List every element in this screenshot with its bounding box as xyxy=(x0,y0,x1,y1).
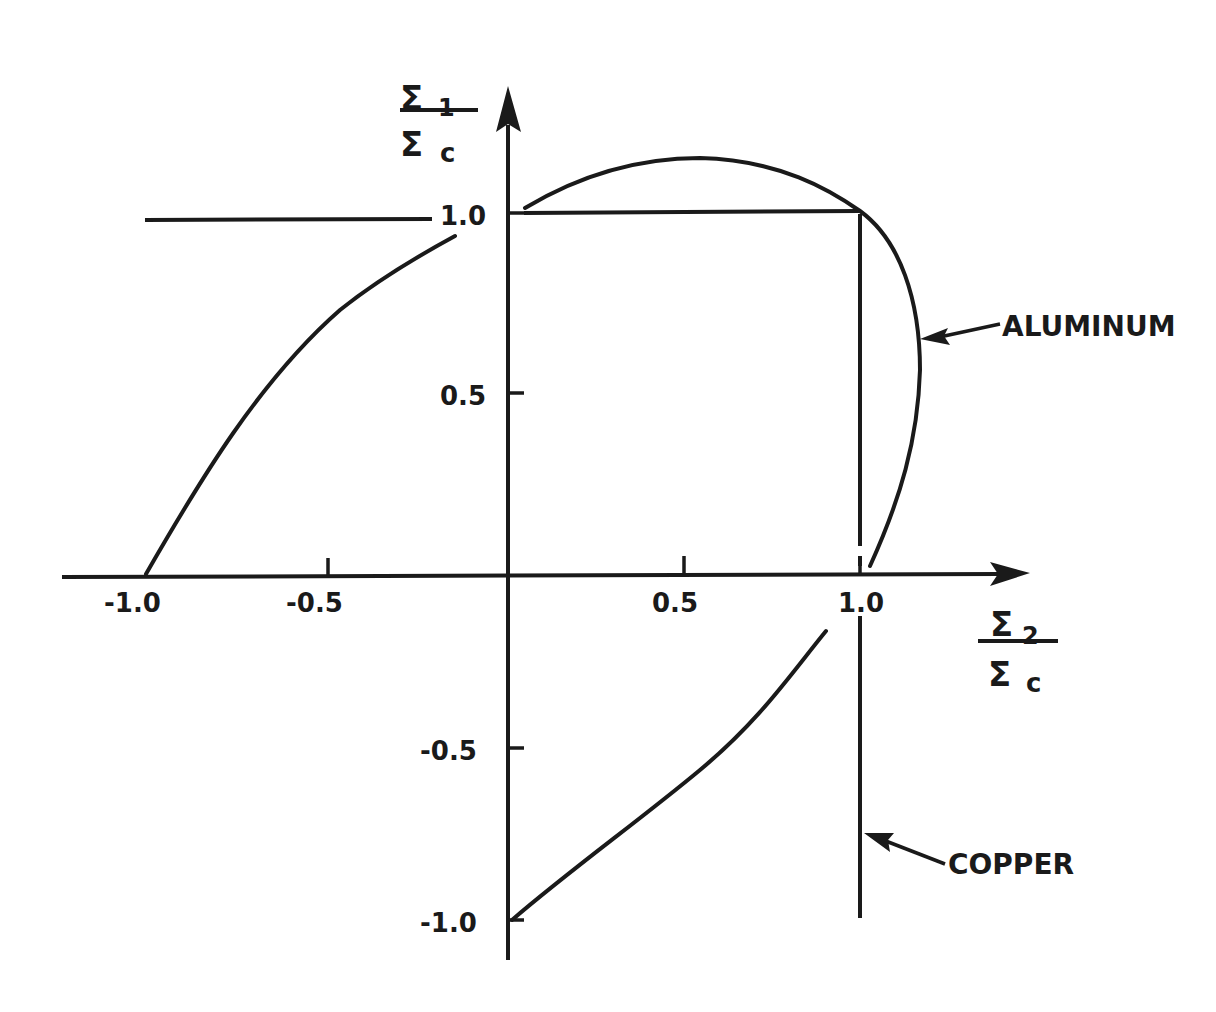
svg-text:2: 2 xyxy=(1022,622,1039,650)
x-tick-label: 1.0 xyxy=(838,588,884,618)
svg-text:Σ: Σ xyxy=(990,604,1013,644)
svg-text:COPPER: COPPER xyxy=(948,848,1074,881)
x-axis-label: Σ 2 Σ c xyxy=(978,604,1058,698)
aluminum-annotation: ALUMINUM xyxy=(920,310,1176,345)
ticks xyxy=(328,213,860,920)
y-tick-label: -1.0 xyxy=(420,908,477,938)
y-axis-label: Σ 1 Σ c xyxy=(400,78,478,168)
y-tick-label: -0.5 xyxy=(420,736,477,766)
x-tick-label: -1.0 xyxy=(104,588,161,618)
svg-text:Σ: Σ xyxy=(400,124,423,164)
y-tick-label: 0.5 xyxy=(440,381,486,411)
x-tick-label: 0.5 xyxy=(652,588,698,618)
y-tick-label: 1.0 xyxy=(440,201,486,231)
yield-locus-diagram: -1.0 -0.5 0.5 1.0 1.0 0.5 -0.5 -1.0 Σ 1 … xyxy=(0,0,1216,1012)
svg-text:c: c xyxy=(440,138,455,168)
tick-labels: -1.0 -0.5 0.5 1.0 1.0 0.5 -0.5 -1.0 xyxy=(104,201,884,938)
svg-text:c: c xyxy=(1026,668,1041,698)
svg-text:ALUMINUM: ALUMINUM xyxy=(1002,310,1176,343)
svg-text:Σ: Σ xyxy=(988,654,1011,694)
axes xyxy=(62,86,1030,960)
copper-curve xyxy=(145,211,860,918)
x-tick-label: -0.5 xyxy=(286,588,343,618)
aluminum-curve xyxy=(146,158,920,920)
copper-annotation: COPPER xyxy=(864,833,1074,881)
